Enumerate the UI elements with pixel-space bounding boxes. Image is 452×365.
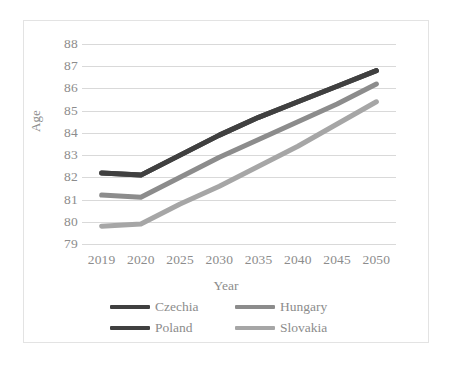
x-tick-2045: 2045: [323, 252, 351, 268]
legend-swatch-icon: [235, 305, 275, 309]
y-tick-86: 86: [36, 82, 78, 96]
y-tick-80: 80: [36, 215, 78, 229]
legend-swatch-icon: [110, 326, 150, 330]
y-tick-83: 83: [36, 148, 78, 162]
legend-item-slovakia[interactable]: Slovakia: [235, 320, 360, 336]
series-line-hungary: [102, 84, 377, 197]
y-axis-tick-labels: 88878685848382818079: [36, 44, 78, 244]
legend-label: Czechia: [155, 299, 198, 315]
series-lines: [82, 44, 396, 244]
x-tick-2025: 2025: [166, 252, 194, 268]
x-tick-2020: 2020: [127, 252, 155, 268]
legend-row: PolandSlovakia: [110, 317, 360, 338]
x-tick-2050: 2050: [362, 252, 390, 268]
y-tick-87: 87: [36, 59, 78, 73]
legend-label: Hungary: [280, 299, 327, 315]
x-tick-2019: 2019: [88, 252, 116, 268]
gridline-79: [82, 244, 396, 245]
plot-area: [82, 44, 396, 244]
legend-row: CzechiaHungary: [110, 296, 360, 317]
legend-swatch-icon: [235, 326, 275, 330]
legend-label: Slovakia: [280, 320, 327, 336]
chart-legend: CzechiaHungaryPolandSlovakia: [110, 296, 360, 338]
y-tick-88: 88: [36, 37, 78, 51]
x-tick-2035: 2035: [245, 252, 273, 268]
x-axis-title: Year: [0, 278, 452, 294]
x-axis-tick-labels: 20192020202520302035204020452050: [82, 252, 396, 272]
y-tick-85: 85: [36, 104, 78, 118]
legend-item-czechia[interactable]: Czechia: [110, 299, 235, 315]
legend-item-hungary[interactable]: Hungary: [235, 299, 360, 315]
y-tick-81: 81: [36, 193, 78, 207]
x-tick-2040: 2040: [284, 252, 312, 268]
y-tick-84: 84: [36, 126, 78, 140]
legend-label: Poland: [155, 320, 193, 336]
x-tick-2030: 2030: [205, 252, 233, 268]
y-tick-82: 82: [36, 171, 78, 185]
legend-swatch-icon: [110, 305, 150, 309]
y-tick-79: 79: [36, 237, 78, 251]
series-line-slovakia: [102, 102, 377, 226]
legend-item-poland[interactable]: Poland: [110, 320, 235, 336]
